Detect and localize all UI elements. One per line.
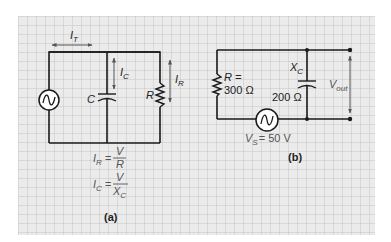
- svg-text:R: R: [116, 158, 124, 170]
- caption-a: (a): [104, 211, 118, 223]
- capacitor-label: C: [87, 93, 95, 105]
- caption-b: (b): [288, 151, 302, 163]
- resistor-label: R: [146, 89, 154, 101]
- node-dot: [305, 117, 309, 121]
- node-dot: [305, 48, 309, 52]
- ac-source-icon: [39, 90, 59, 110]
- output-terminal-bottom: [348, 117, 352, 121]
- capacitive-reactance-value: 200 Ω: [272, 91, 302, 103]
- output-terminal-top: [348, 48, 352, 52]
- resistor-value: 300 Ω: [224, 84, 254, 96]
- svg-text:=: =: [105, 152, 111, 164]
- graph-paper-background: [18, 16, 375, 235]
- ac-source-icon: [256, 109, 278, 131]
- circuit-figure: IT IC IR C R IR = V R IC = V XC (a): [0, 0, 391, 242]
- svg-text:=: =: [105, 178, 111, 190]
- resistor-value-label: R =: [224, 71, 242, 83]
